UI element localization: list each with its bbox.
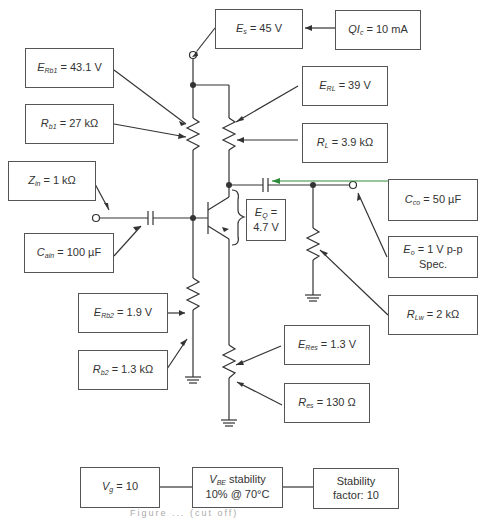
vg-value: = 10 [116, 480, 138, 492]
res-value: = 130 Ω [317, 396, 356, 408]
vg-box: Vg = 10 [80, 467, 160, 508]
qic-box: QIc = 10 mA [335, 10, 421, 50]
rlw-sub: Lw [415, 314, 424, 321]
cco-symbol: C [405, 193, 413, 205]
rl-box: RL = 3.9 kΩ [302, 123, 388, 163]
rb1-sub: b1 [49, 123, 57, 130]
eres-box: ERes = 1.3 V [284, 325, 370, 365]
vg-sub: g [109, 486, 113, 493]
cco-value: = 50 µF [423, 193, 461, 205]
eq-sub: Q [262, 212, 267, 219]
rlw-box: RLw = 2 kΩ [388, 295, 478, 335]
erb2-box: ERb2 = 1.9 V [78, 293, 168, 333]
eo-line2: Spec. [419, 258, 447, 270]
stability-line1: Stability [337, 475, 376, 487]
erb1-sub: Rb1 [45, 67, 58, 74]
rb1-symbol: R [41, 117, 49, 129]
erl-value: = 39 V [339, 79, 371, 91]
rb2-value: = 1.3 kΩ [112, 363, 154, 375]
res-sub: es [306, 402, 313, 409]
zin-value: = 1 kΩ [43, 174, 75, 186]
res-symbol: R [298, 396, 306, 408]
rlw-symbol: R [407, 308, 415, 320]
eres-value: = 1.3 V [321, 338, 356, 350]
rb1-value: = 27 kΩ [60, 117, 99, 129]
vbe-line2: 10% @ 70°C [206, 488, 270, 500]
zin-sub: in [35, 180, 40, 187]
qic-value: = 10 mA [366, 23, 407, 35]
erl-symbol: E [319, 79, 326, 91]
cain-symbol: C [37, 246, 45, 258]
cain-box: Cain = 100 µF [24, 233, 114, 273]
stability-box: Stabilityfactor: 10 [313, 468, 399, 509]
res-box: Res = 130 Ω [284, 383, 370, 423]
rl-symbol: R [317, 136, 325, 148]
eo-value: = 1 V p-p [418, 243, 463, 255]
eq-line2: 4.7 V [253, 221, 279, 233]
rb2-symbol: R [93, 363, 101, 375]
cain-value: = 100 µF [57, 246, 101, 258]
rb1-box: Rb1 = 27 kΩ [25, 104, 114, 144]
rb2-sub: b2 [101, 369, 109, 376]
cco-sub: co [413, 199, 420, 206]
qic-symbol: QI [348, 23, 360, 35]
zin-symbol: Z [28, 174, 35, 186]
vbe-box: VBE stability10% @ 70°C [192, 467, 283, 508]
eo-box: Eo = 1 V p-pSpec. [388, 236, 478, 278]
eq-value: = [271, 206, 277, 218]
eq-box: EQ =4.7 V [246, 199, 286, 241]
zin-box: Zin = 1 kΩ [8, 161, 96, 201]
erb1-symbol: E [37, 61, 44, 73]
erb1-value: = 43.1 V [60, 61, 101, 73]
eo-sub: o [411, 249, 415, 256]
rl-value: = 3.9 kΩ [332, 136, 374, 148]
erl-sub: RL [327, 85, 336, 92]
figure-caption: Figure ... (cut off) [130, 508, 238, 518]
es-sub: s [243, 28, 247, 35]
qic-sub: c [360, 29, 364, 36]
eres-sub: Res [305, 344, 317, 351]
erb2-value: = 1.9 V [117, 306, 152, 318]
cain-sub: ain [45, 252, 54, 259]
vbe-symbol: V [209, 473, 216, 485]
eo-symbol: E [403, 243, 410, 255]
erb1-box: ERb1 = 43.1 V [25, 48, 114, 88]
rl-sub: L [325, 142, 329, 149]
es-box: Es = 45 V [215, 9, 303, 49]
es-value: = 45 V [250, 22, 282, 34]
rlw-value: = 2 kΩ [427, 308, 459, 320]
stability-line2: factor: 10 [333, 489, 379, 501]
cco-box: Cco = 50 µF [388, 179, 478, 221]
vbe-value: stability [229, 473, 266, 485]
erl-box: ERL = 39 V [302, 66, 388, 106]
vbe-sub: BE [217, 479, 226, 486]
rb2-box: Rb2 = 1.3 kΩ [78, 350, 168, 390]
erb2-sub: Rb2 [101, 312, 114, 319]
